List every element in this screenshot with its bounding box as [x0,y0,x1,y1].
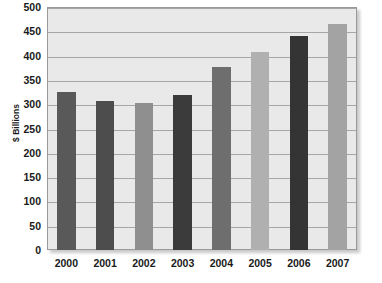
x-axis-tick-label: 2004 [210,257,233,269]
y-axis-tick-label: 0 [35,244,41,256]
y-axis-tick-label: 200 [23,147,41,159]
x-axis-tick-label: 2005 [248,257,271,269]
bar-slot [47,7,86,250]
x-axis-tick-labels: 20002001200220032004200520062007 [47,253,357,275]
y-axis-tick-label: 500 [23,1,41,13]
x-axis-tick-label: 2006 [287,257,310,269]
bar-slot [280,7,319,250]
bar-slot [202,7,241,250]
bar-series [47,7,357,250]
bar-slot [163,7,202,250]
bar[interactable] [251,52,270,250]
bar-chart: $ Billions 05010015020025030035040045050… [0,0,382,283]
x-axis-tick-label: 2001 [93,257,116,269]
x-axis-tick-label: 2007 [326,257,349,269]
bar[interactable] [57,92,76,250]
bar-slot [125,7,164,250]
x-axis-tick-label: 2002 [132,257,155,269]
y-axis-tick-label: 450 [23,25,41,37]
bar-slot [241,7,280,250]
y-axis-tick-label: 350 [23,74,41,86]
y-axis-tick-label: 50 [29,220,41,232]
y-axis-tick-label: 400 [23,50,41,62]
bar-slot [318,7,357,250]
x-axis-tick-label: 2003 [171,257,194,269]
bar-slot [86,7,125,250]
y-axis-tick-labels: 050100150200250300350400450500 [0,0,44,283]
y-axis-tick-label: 300 [23,98,41,110]
y-axis-tick-label: 250 [23,123,41,135]
bar[interactable] [328,24,347,250]
bar[interactable] [96,101,115,250]
bar[interactable] [212,67,231,250]
bar[interactable] [173,95,192,250]
y-axis-tick-label: 100 [23,195,41,207]
bar[interactable] [290,36,309,250]
y-axis-tick-label: 150 [23,171,41,183]
bar[interactable] [135,103,154,250]
x-axis-tick-label: 2000 [55,257,78,269]
